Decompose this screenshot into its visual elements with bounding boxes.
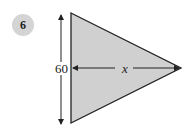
triangle-figure	[0, 0, 192, 132]
height-label: 60	[54, 62, 69, 75]
length-label: x	[119, 62, 131, 75]
